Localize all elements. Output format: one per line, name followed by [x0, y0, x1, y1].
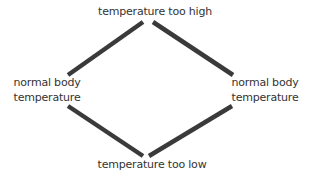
node-left-line2: temperature — [2, 90, 92, 105]
edge-left-to-top — [68, 22, 143, 75]
edge-top-to-right — [153, 22, 233, 75]
edge-left-to-bottom — [68, 106, 143, 156]
node-temperature-too-high: temperature too high — [95, 4, 215, 19]
node-normal-body-temperature-left: normal body temperature — [2, 75, 92, 105]
node-temperature-too-low: temperature too low — [92, 157, 212, 172]
node-normal-body-temperature-right: normal body temperature — [220, 75, 310, 105]
node-right-line2: temperature — [220, 90, 310, 105]
node-right-line1: normal body — [220, 75, 310, 90]
edge-bottom-to-right — [149, 106, 232, 156]
node-left-line1: normal body — [2, 75, 92, 90]
